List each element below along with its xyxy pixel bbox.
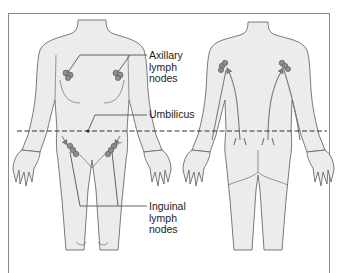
axillary-label-line-3: nodes	[149, 73, 183, 85]
umbilicus-label: Umbilicus	[149, 109, 195, 121]
umbilicus-label-text: Umbilicus	[149, 109, 195, 121]
inguinal-label-line-1: Inguinal	[149, 201, 186, 213]
axillary-lymph-nodes-label: Axillary lymph nodes	[149, 50, 183, 85]
front-body-figure	[13, 20, 171, 250]
back-body-figure	[183, 22, 334, 250]
axillary-label-line-1: Axillary	[149, 50, 183, 62]
inguinal-label-line-3: nodes	[149, 224, 186, 236]
inguinal-lymph-nodes-label: Inguinal lymph nodes	[149, 201, 186, 236]
